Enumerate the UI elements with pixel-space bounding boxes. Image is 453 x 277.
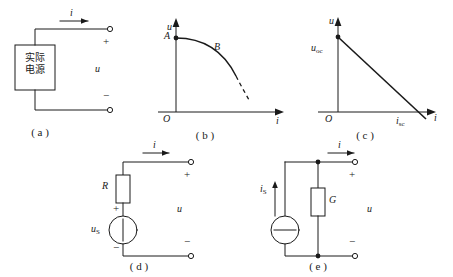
short-circuit-current-subscript: sc <box>399 120 405 128</box>
current-arrow-head <box>81 18 88 24</box>
panel-b-characteristic-curve: u i O A B ( b ) <box>150 0 295 150</box>
point-b-label: B <box>214 42 220 52</box>
minus-sign-e: − <box>349 236 355 247</box>
caption-e: ( e ) <box>288 260 348 272</box>
terminal-positive-e <box>352 159 357 164</box>
current-arrow-head-e <box>347 150 354 156</box>
i-axis-label-b: i <box>276 116 279 126</box>
current-label-e: i <box>338 140 341 150</box>
panel-c-linear-characteristic: u i O uoc isc ( c ) <box>295 0 453 150</box>
resistor-label-d: R <box>102 181 108 191</box>
source-minus-sign-d: − <box>113 242 119 253</box>
terminal-negative-d <box>188 253 193 258</box>
origin-label-c: O <box>325 114 332 124</box>
bottom-wire-d <box>123 244 189 256</box>
minus-sign-d: − <box>184 236 190 247</box>
line-c <box>338 37 426 119</box>
point-a-label: A <box>164 31 170 41</box>
short-circuit-current-label: isc <box>396 116 405 128</box>
top-wire <box>35 29 108 45</box>
panel-d-circuit <box>85 140 245 277</box>
panel-e-circuit <box>240 140 425 277</box>
panel-d-thevenin-model: i R + uS − + u − ( d ) <box>85 140 245 277</box>
voltage-label-a: u <box>95 64 100 74</box>
resistor-r <box>116 175 130 203</box>
current-arrow-head-d <box>162 150 169 156</box>
curve-solid-b <box>176 38 236 76</box>
current-label-a: i <box>70 8 73 18</box>
terminal-positive-d <box>188 159 193 164</box>
junction-top-e <box>316 160 321 165</box>
terminal-positive <box>107 26 112 31</box>
top-wire-d <box>123 162 189 175</box>
curve-dashed-b <box>236 76 250 102</box>
source-current-arrow-head-e <box>272 181 278 188</box>
conductance-label-e: G <box>329 195 336 205</box>
u-axis-label-c: u <box>329 16 334 26</box>
source-label-e: iS <box>260 184 267 196</box>
voltage-label-d: u <box>177 204 182 214</box>
open-circuit-voltage-label: uoc <box>311 43 323 55</box>
open-circuit-voltage-subscript: oc <box>316 47 323 55</box>
bottom-wire <box>35 90 108 110</box>
figure-canvas: 实际 电源 i + u − ( a ) u i O <box>0 0 453 277</box>
source-box-label: 实际 电源 <box>15 52 55 76</box>
source-subscript-e: S <box>263 188 267 196</box>
origin-label-b: O <box>163 114 170 124</box>
terminal-negative-e <box>352 253 357 258</box>
caption-a: ( a ) <box>10 126 70 138</box>
source-label-d: uS <box>91 224 100 236</box>
u-axis-arrow-c <box>335 17 342 26</box>
plus-sign-a: + <box>103 36 109 47</box>
caption-d: ( d ) <box>109 260 169 272</box>
minus-sign-a: − <box>103 90 109 101</box>
junction-bottom-e <box>316 254 321 259</box>
plus-sign-d: + <box>184 169 190 180</box>
point-a-marker <box>174 36 179 41</box>
current-label-d: i <box>153 140 156 150</box>
plus-sign-e: + <box>349 169 355 180</box>
source-subscript-d: S <box>96 228 100 236</box>
voltage-label-e: u <box>367 204 372 214</box>
panel-a-practical-source: 实际 电源 i + u − ( a ) <box>0 0 150 150</box>
conductance-g <box>311 188 325 216</box>
i-axis-label-c: i <box>434 113 437 123</box>
u-axis-arrow-b <box>173 18 180 27</box>
open-circuit-point-marker <box>336 35 341 40</box>
terminal-negative <box>107 107 112 112</box>
panel-c-chart <box>295 0 453 150</box>
panel-e-norton-model: i iS G + u − ( e ) <box>240 140 425 277</box>
source-plus-sign-d: + <box>113 203 119 214</box>
